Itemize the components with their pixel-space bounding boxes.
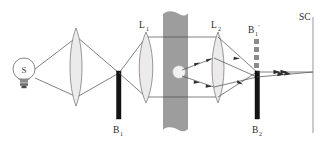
- label-stop-B1-letter: B: [113, 125, 119, 135]
- label-stop-B1-prime-letter: B: [248, 25, 254, 35]
- label-lens-L1-subscript: 1: [146, 26, 149, 32]
- optics-schematic-canvas: S L 1 L 2 B 1 B 1 ' B 2 SC: [0, 0, 329, 143]
- label-stop-B1-subscript: 1: [120, 131, 123, 137]
- stop-B1-prime-seg-3: [254, 55, 259, 60]
- label-lens-L2-letter: L: [211, 20, 217, 30]
- bulb-base-ring-1: [20, 80, 28, 83]
- label-source-S: S: [21, 65, 26, 75]
- label-stop-B1-prime-mark: ': [259, 24, 260, 30]
- stop-B2-bar: [255, 71, 260, 119]
- label-stop-B2-subscript: 2: [259, 131, 262, 137]
- label-lens-L1-letter: L: [139, 20, 145, 30]
- stop-B2: [255, 71, 260, 119]
- label-stop-B1-prime-subscript: 1: [255, 31, 258, 37]
- stop-B1: [117, 71, 122, 119]
- label-screen-SC: SC: [299, 12, 311, 22]
- label-stop-B1-prime: B 1 ': [248, 24, 260, 37]
- bulb-base-ring-2: [20, 83, 28, 86]
- stop-B1-prime-seg-1: [254, 39, 259, 44]
- stop-B1-prime-seg-2: [254, 47, 259, 52]
- stop-B1-bar: [117, 71, 122, 119]
- label-lens-L2-subscript: 2: [218, 26, 221, 32]
- bulb-base-tip: [22, 86, 27, 88]
- optics-diagram: S L 1 L 2 B 1 B 1 ' B 2 SC: [0, 0, 329, 143]
- stop-B1-prime-seg-4: [254, 63, 259, 68]
- label-stop-B2-letter: B: [252, 125, 258, 135]
